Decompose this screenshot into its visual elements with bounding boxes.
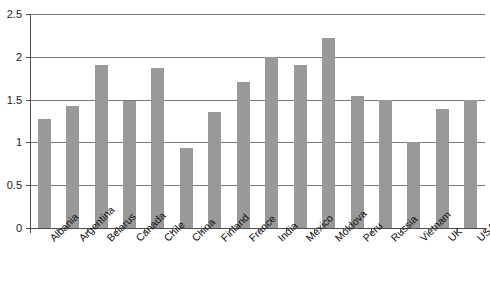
x-tick-mark <box>400 229 401 233</box>
x-axis-label: Albania <box>48 236 56 244</box>
x-tick-mark <box>343 229 344 233</box>
x-tick-mark <box>229 229 230 233</box>
x-tick-mark <box>115 229 116 233</box>
x-tick-mark <box>201 229 202 233</box>
bar-chart: 2.5 2 1.5 1 0.5 0 AlbaniaArgentinaBelaru… <box>0 0 490 289</box>
x-axis-label: Finland <box>219 236 227 244</box>
x-axis-label: Argentina <box>77 236 85 244</box>
x-tick-mark <box>172 229 173 233</box>
x-tick-mark <box>30 229 31 233</box>
x-axis-label: France <box>247 236 255 244</box>
x-axis-label: Peru <box>361 236 369 244</box>
x-axis-label: Chile <box>162 236 170 244</box>
x-axis-label: Canada <box>134 236 142 244</box>
x-axis-label: Russia <box>389 236 397 244</box>
x-axis-label: China <box>190 236 198 244</box>
x-axis-label: UK <box>446 236 454 244</box>
x-axis-labels: AlbaniaArgentinaBelarusCanadaChileChinaF… <box>0 0 490 289</box>
x-tick-mark <box>286 229 287 233</box>
x-axis-label: India <box>276 236 284 244</box>
x-axis-label: Mexico <box>304 236 312 244</box>
x-tick-mark <box>144 229 145 233</box>
x-tick-mark <box>485 229 486 233</box>
x-axis-label: Belarus <box>105 236 113 244</box>
x-tick-mark <box>87 229 88 233</box>
x-axis-label: Moldova <box>333 236 341 244</box>
x-tick-mark <box>258 229 259 233</box>
x-tick-mark <box>58 229 59 233</box>
x-tick-mark <box>314 229 315 233</box>
x-tick-mark <box>457 229 458 233</box>
x-tick-mark <box>428 229 429 233</box>
x-axis-label: Vietnam <box>418 236 426 244</box>
x-axis-label: USA <box>475 236 483 244</box>
x-tick-mark <box>371 229 372 233</box>
